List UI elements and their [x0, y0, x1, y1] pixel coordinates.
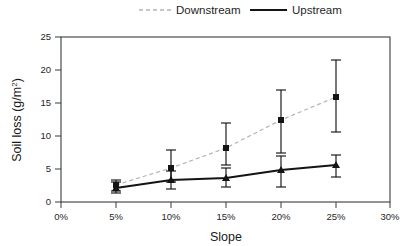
y-tick-label-15: 15 — [40, 97, 51, 108]
x-axis: 0% 5% 10% 15% 20% 25% 30% — [54, 202, 400, 222]
x-tick-label-30: 30% — [380, 211, 400, 222]
x-tick-label-15: 15% — [216, 211, 236, 222]
y-tick-label-5: 5 — [46, 163, 51, 174]
marker-downstream-20 — [278, 117, 284, 123]
x-tick-label-20: 20% — [271, 211, 291, 222]
x-tick-label-5: 5% — [109, 211, 123, 222]
y-tick-label-10: 10 — [40, 130, 51, 141]
y-axis: 0 5 10 15 20 25 — [40, 31, 61, 207]
x-tick-label-25: 25% — [326, 211, 346, 222]
marker-downstream-15 — [223, 145, 229, 151]
legend-label-upstream: Upstream — [292, 4, 342, 16]
marker-downstream-25 — [333, 94, 339, 100]
x-tick-label-10: 10% — [161, 211, 181, 222]
y-axis-title-base: Soil loss (g/m — [10, 87, 24, 162]
y-tick-label-20: 20 — [40, 64, 51, 75]
x-axis-title: Slope — [210, 230, 242, 244]
legend-label-downstream: Downstream — [176, 4, 241, 16]
y-tick-label-0: 0 — [46, 196, 51, 207]
y-tick-label-25: 25 — [40, 31, 51, 42]
chart-legend: Downstream Upstream — [139, 4, 342, 16]
y-axis-title-close: ) — [10, 78, 24, 82]
chart-figure: Downstream Upstream 0 5 10 15 20 25 — [0, 0, 419, 246]
y-axis-title: Soil loss (g/m2) — [10, 78, 24, 162]
x-tick-label-0: 0% — [54, 211, 68, 222]
marker-downstream-10 — [168, 165, 174, 171]
svg-text:Soil loss (g/m2): Soil loss (g/m2) — [10, 78, 24, 162]
soil-loss-line-chart: Downstream Upstream 0 5 10 15 20 25 — [0, 0, 419, 246]
